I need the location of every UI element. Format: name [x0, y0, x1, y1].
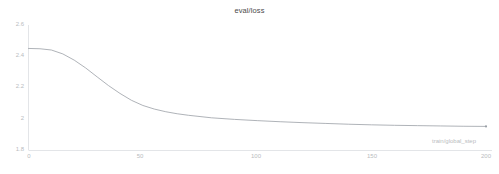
y-tick-label-2-6: 2.6 [2, 21, 24, 27]
x-tick-label-150: 150 [360, 153, 384, 159]
plot-area [0, 0, 499, 174]
x-tick-label-200: 200 [474, 153, 498, 159]
y-tick-label-2: 2 [2, 115, 24, 121]
x-tick-label-50: 50 [128, 153, 152, 159]
eval-loss-chart-panel: eval/loss 2.6 2.4 2.2 2 1.8 0 50 100 150… [0, 0, 499, 174]
x-tick-label-100: 100 [244, 153, 268, 159]
y-tick-label-2-4: 2.4 [2, 52, 24, 58]
series-line-eval-loss [29, 48, 487, 126]
x-tick-label-0: 0 [17, 153, 41, 159]
x-axis-title: train/global_step [432, 138, 476, 144]
series-endpoint-marker [485, 125, 487, 127]
y-tick-label-1-8: 1.8 [2, 146, 24, 152]
y-tick-label-2-2: 2.2 [2, 83, 24, 89]
